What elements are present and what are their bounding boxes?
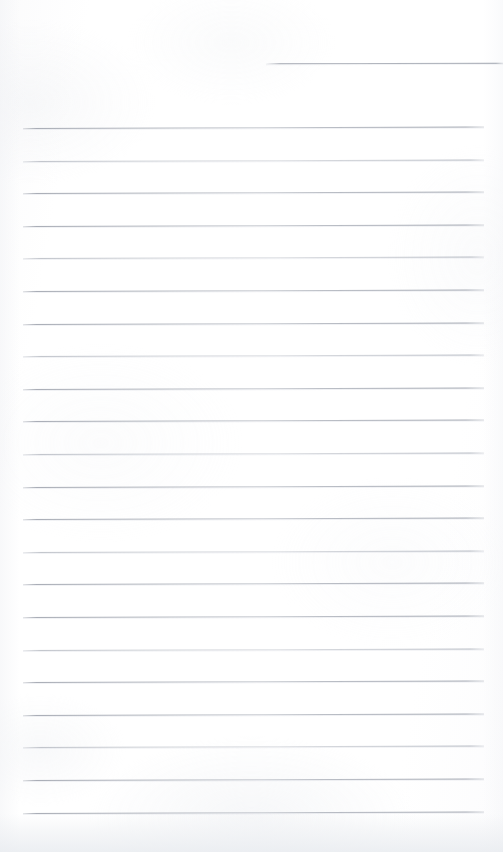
header-rule — [266, 63, 503, 65]
scanned-page — [0, 0, 503, 852]
ruled-line — [23, 453, 484, 455]
ruled-line — [23, 779, 484, 781]
ruled-line — [23, 127, 484, 129]
ruled-line — [23, 616, 484, 618]
ruled-line — [23, 290, 484, 292]
